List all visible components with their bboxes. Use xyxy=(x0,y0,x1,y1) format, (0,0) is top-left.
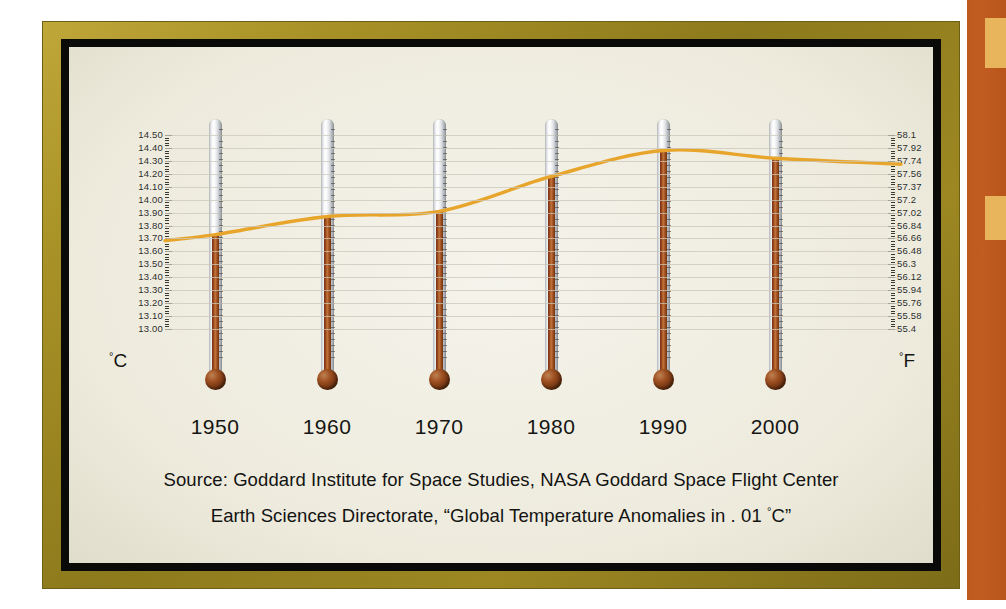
fahrenheit-tick-label: 55.94 xyxy=(897,284,922,295)
celsius-tick-label: 14.20 xyxy=(138,168,163,179)
fahrenheit-tick-label: 56.12 xyxy=(897,271,922,282)
celsius-tick-label: 13.50 xyxy=(138,258,163,269)
axis-minor-tick xyxy=(891,207,895,208)
fahrenheit-tick-label: 57.37 xyxy=(897,181,922,192)
axis-minor-tick xyxy=(165,246,169,247)
axis-minor-tick xyxy=(891,280,895,281)
decorative-tab-lower xyxy=(985,196,1006,240)
celsius-tick-label: 14.10 xyxy=(138,181,163,192)
axis-minor-tick xyxy=(165,249,169,250)
axis-minor-tick xyxy=(165,275,169,276)
thermometer-scale-marks xyxy=(219,129,223,363)
axis-minor-tick xyxy=(165,272,169,273)
screenshot-root: 14.5014.4014.3014.2014.1014.0013.9013.80… xyxy=(0,0,1006,609)
axis-minor-tick xyxy=(165,228,169,229)
gridline xyxy=(165,200,897,201)
axis-minor-tick xyxy=(165,182,169,183)
axis-minor-tick xyxy=(891,257,895,258)
thermometer-bulb xyxy=(317,369,338,390)
thermometer-mercury xyxy=(212,235,219,377)
celsius-tick-label: 13.60 xyxy=(138,245,163,256)
celsius-tick-label: 13.40 xyxy=(138,271,163,282)
axis-minor-tick xyxy=(891,189,895,190)
gridline xyxy=(165,303,897,304)
axis-minor-tick xyxy=(165,207,169,208)
axis-minor-tick xyxy=(891,194,895,195)
thermometer-scale-marks xyxy=(555,129,559,363)
decorative-tab-upper xyxy=(985,18,1006,68)
axis-minor-tick xyxy=(165,171,169,172)
unit-letter: C xyxy=(113,350,127,371)
fahrenheit-tick-label: 55.4 xyxy=(897,323,916,334)
axis-minor-tick xyxy=(891,270,895,271)
axis-minor-tick xyxy=(165,259,169,260)
axis-minor-tick xyxy=(891,326,895,327)
axis-minor-tick xyxy=(891,306,895,307)
axis-minor-tick xyxy=(165,288,169,289)
decorative-rust-panel xyxy=(967,0,1006,600)
axis-minor-tick xyxy=(891,210,895,211)
axis-minor-tick xyxy=(891,143,895,144)
axis-minor-tick xyxy=(165,308,169,309)
thermometer-bulb xyxy=(765,369,786,390)
gridline xyxy=(165,316,897,317)
gridline xyxy=(165,264,897,265)
fahrenheit-tick-label: 56.3 xyxy=(897,258,916,269)
axis-minor-tick xyxy=(165,282,169,283)
axis-minor-tick xyxy=(165,321,169,322)
axis-minor-tick xyxy=(165,306,169,307)
axis-minor-tick xyxy=(891,311,895,312)
fahrenheit-tick-label: 57.56 xyxy=(897,168,922,179)
axis-minor-tick xyxy=(891,233,895,234)
thermometer-bulb xyxy=(429,369,450,390)
fahrenheit-tick-label: 58.1 xyxy=(897,129,916,140)
celsius-tick-label: 13.00 xyxy=(138,323,163,334)
axis-minor-tick xyxy=(165,153,169,154)
axis-minor-tick xyxy=(891,215,895,216)
axis-minor-tick xyxy=(165,270,169,271)
axis-minor-tick xyxy=(891,179,895,180)
axis-minor-tick xyxy=(165,176,169,177)
axis-minor-tick xyxy=(165,301,169,302)
axis-minor-tick xyxy=(891,288,895,289)
axis-minor-tick xyxy=(891,182,895,183)
axis-minor-tick xyxy=(165,233,169,234)
gridline xyxy=(165,187,897,188)
axis-minor-tick xyxy=(165,241,169,242)
axis-minor-tick xyxy=(165,236,169,237)
axis-minor-tick xyxy=(165,194,169,195)
axis-minor-tick xyxy=(165,163,169,164)
axis-minor-tick xyxy=(891,223,895,224)
axis-minor-tick xyxy=(891,158,895,159)
axis-minor-tick xyxy=(165,143,169,144)
source-line-2-text: Earth Sciences Directorate, “Global Temp… xyxy=(211,505,767,526)
gridline xyxy=(165,277,897,278)
axis-minor-tick xyxy=(891,197,895,198)
celsius-tick-label: 14.50 xyxy=(138,129,163,140)
axis-minor-tick xyxy=(165,145,169,146)
source-line-2: Earth Sciences Directorate, “Global Temp… xyxy=(69,505,933,527)
axis-minor-tick xyxy=(891,244,895,245)
axis-minor-tick xyxy=(165,244,169,245)
celsius-tick-label: 14.00 xyxy=(138,194,163,205)
axis-minor-tick xyxy=(165,280,169,281)
thermometer-bulb xyxy=(541,369,562,390)
axis-minor-tick xyxy=(891,236,895,237)
axis-minor-tick xyxy=(891,282,895,283)
axis-minor-tick xyxy=(165,254,169,255)
gridline xyxy=(165,290,897,291)
axis-minor-tick xyxy=(165,205,169,206)
axis-minor-tick xyxy=(891,169,895,170)
celsius-tick-label: 13.30 xyxy=(138,284,163,295)
thermometer-mercury xyxy=(324,216,331,377)
gridline xyxy=(165,135,897,136)
axis-minor-tick xyxy=(891,241,895,242)
axis-minor-tick xyxy=(891,308,895,309)
fahrenheit-tick-label: 57.2 xyxy=(897,194,916,205)
axis-minor-tick xyxy=(165,179,169,180)
gridline xyxy=(165,148,897,149)
thermometer-bulb xyxy=(205,369,226,390)
picture-frame: 14.5014.4014.3014.2014.1014.0013.9013.80… xyxy=(43,22,959,588)
axis-minor-tick xyxy=(165,220,169,221)
celsius-tick-label: 14.40 xyxy=(138,142,163,153)
